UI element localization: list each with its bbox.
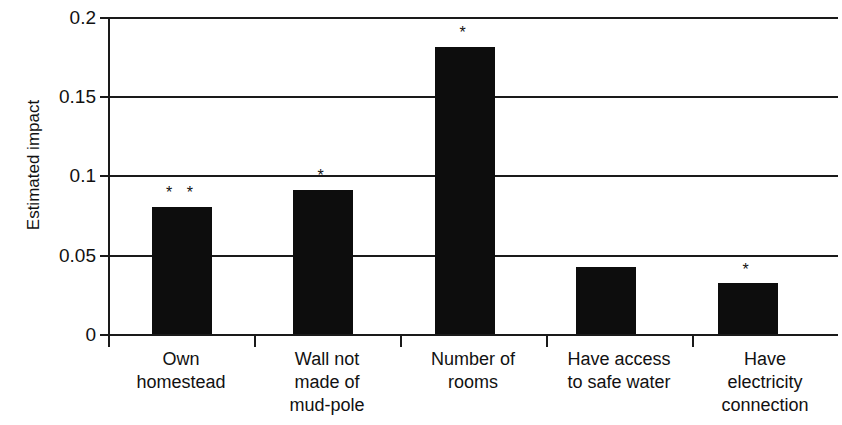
x-label-line: Number of: [400, 348, 546, 371]
bar-number-of-rooms: [435, 47, 495, 334]
bar-chart: Estimated impact 0.2 0.15 0.1 0.05 0 * *…: [0, 0, 842, 425]
y-tick-label-0.05: 0.05: [59, 246, 96, 265]
significance-marker-electricity-connection: *: [718, 262, 778, 278]
x-axis-label-wall-not-mud-pole: Wall not made of mud-pole: [254, 348, 400, 417]
x-label-line: mud-pole: [254, 394, 400, 417]
y-axis-title: Estimated impact: [24, 35, 44, 295]
x-label-line: Wall not: [254, 348, 400, 371]
y-tick-label-0.2: 0.2: [70, 8, 96, 27]
x-label-line: Own: [108, 348, 254, 371]
bar-wall-not-mud-pole: [293, 190, 353, 334]
x-axis-label-electricity-connection: Have electricity connection: [692, 348, 838, 417]
bar-own-homestead: [152, 207, 212, 334]
x-tick-mark-1: [254, 336, 256, 347]
x-tick-mark-4: [692, 336, 694, 347]
plot-area: * * * * *: [108, 17, 838, 334]
x-label-line: to safe water: [546, 371, 692, 394]
x-label-line: made of: [254, 371, 400, 394]
x-label-line: homestead: [108, 371, 254, 394]
significance-marker-own-homestead: * *: [152, 185, 212, 201]
bar-electricity-connection: [718, 283, 778, 334]
y-tick-label-0.15: 0.15: [59, 87, 96, 106]
x-label-line: rooms: [400, 371, 546, 394]
x-label-line: Have access: [546, 348, 692, 371]
gridline-0.2: [108, 17, 838, 19]
y-tick-label-0: 0: [85, 325, 96, 344]
significance-marker-wall-not-mud-pole: *: [293, 168, 353, 184]
x-tick-mark-2: [400, 336, 402, 347]
x-tick-mark-3: [546, 336, 548, 347]
x-axis-label-own-homestead: Own homestead: [108, 348, 254, 394]
x-axis-label-number-of-rooms: Number of rooms: [400, 348, 546, 394]
x-label-line: connection: [692, 394, 838, 417]
x-label-line: Have: [692, 348, 838, 371]
y-tick-label-0.1: 0.1: [70, 166, 96, 185]
x-label-line: electricity: [692, 371, 838, 394]
x-axis-label-access-safe-water: Have access to safe water: [546, 348, 692, 394]
x-tick-mark-0: [108, 336, 110, 347]
x-axis-line: [108, 334, 838, 336]
bar-access-safe-water: [576, 267, 636, 334]
significance-marker-number-of-rooms: *: [435, 25, 495, 41]
